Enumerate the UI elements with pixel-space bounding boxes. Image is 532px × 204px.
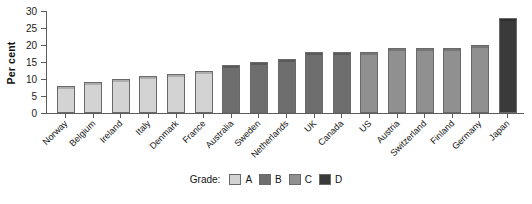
bar-slot <box>467 11 492 113</box>
bar-slot <box>274 11 299 113</box>
legend-swatch <box>289 174 301 185</box>
bar[interactable] <box>360 52 378 113</box>
legend-item[interactable]: A <box>229 174 252 185</box>
x-axis-label: Italy <box>134 119 152 137</box>
bar-group <box>47 11 524 113</box>
bar[interactable] <box>416 48 434 113</box>
y-axis-title: Per cent <box>4 11 18 114</box>
y-axis-tick: 20 <box>41 45 46 46</box>
bar[interactable] <box>139 76 157 113</box>
x-axis-label: UK <box>303 119 318 134</box>
bar-slot <box>164 11 189 113</box>
bar[interactable] <box>305 52 323 113</box>
x-axis-label-slot: Ireland <box>108 117 133 163</box>
x-axis-label: US <box>358 119 373 134</box>
y-axis-tick: 25 <box>41 28 46 29</box>
bar[interactable] <box>388 48 406 113</box>
x-axis-label-slot: Germany <box>467 117 492 163</box>
y-axis-tick: 10 <box>41 79 46 80</box>
y-axis-tick-label: 10 <box>26 75 37 85</box>
bar[interactable] <box>443 48 461 113</box>
bar[interactable] <box>499 18 517 113</box>
y-axis-title-label: Per cent <box>5 41 17 84</box>
bar-chart-figure: Per cent 051015202530 NorwayBelgiumIrela… <box>0 0 532 204</box>
bar-slot <box>81 11 106 113</box>
bar[interactable] <box>333 52 351 113</box>
y-axis-tick: 0 <box>41 113 46 114</box>
bar-slot <box>495 11 520 113</box>
legend-swatch <box>229 174 241 185</box>
bar[interactable] <box>195 71 213 114</box>
legend-label: C <box>305 175 312 185</box>
bar-slot <box>440 11 465 113</box>
bar-slot <box>53 11 78 113</box>
bar[interactable] <box>471 45 489 113</box>
plot-area: 051015202530 <box>46 11 524 114</box>
bar[interactable] <box>222 65 240 113</box>
y-axis-tick-label: 20 <box>26 41 37 51</box>
legend-item[interactable]: B <box>259 174 282 185</box>
x-axis-label: Norway <box>41 119 69 147</box>
y-axis-tick: 15 <box>41 62 46 63</box>
y-axis-tick-label: 15 <box>26 58 37 68</box>
x-axis-label-slot: Canada <box>329 117 354 163</box>
legend-label: A <box>245 175 252 185</box>
bar[interactable] <box>112 79 130 113</box>
bar-slot <box>191 11 216 113</box>
y-axis-tick-label: 0 <box>31 109 37 119</box>
bar-slot <box>412 11 437 113</box>
legend: Grade: ABCD <box>0 174 532 185</box>
bar[interactable] <box>167 74 185 113</box>
bar[interactable] <box>84 82 102 113</box>
legend-item[interactable]: D <box>319 174 342 185</box>
x-axis-label-slot: Netherlands <box>274 117 299 163</box>
bar-slot <box>136 11 161 113</box>
y-axis-tick-label: 5 <box>31 92 37 102</box>
y-axis-tick: 5 <box>41 96 46 97</box>
y-axis-tick: 30 <box>41 11 46 12</box>
legend-label: B <box>275 175 282 185</box>
x-axis-labels: NorwayBelgiumIrelandItalyDenmarkFranceAu… <box>47 117 524 163</box>
bar-slot <box>385 11 410 113</box>
bar[interactable] <box>278 59 296 113</box>
legend-swatch <box>259 174 271 185</box>
legend-label: D <box>335 175 342 185</box>
bar-slot <box>329 11 354 113</box>
bar-slot <box>108 11 133 113</box>
legend-title: Grade: <box>190 174 221 185</box>
bar[interactable] <box>250 62 268 113</box>
x-axis-label-slot: Japan <box>495 117 520 163</box>
y-axis-tick-label: 30 <box>26 7 37 17</box>
bar-slot <box>246 11 271 113</box>
bar-slot <box>219 11 244 113</box>
y-axis-tick-label: 25 <box>26 24 37 34</box>
legend-swatch <box>319 174 331 185</box>
bar[interactable] <box>57 86 75 113</box>
bar-slot <box>302 11 327 113</box>
legend-item[interactable]: C <box>289 174 312 185</box>
bar-slot <box>357 11 382 113</box>
